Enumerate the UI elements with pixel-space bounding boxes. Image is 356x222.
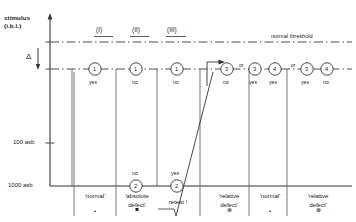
node-number-1c: 1 xyxy=(175,66,178,72)
answer-label-2b: yes xyxy=(171,170,179,176)
verdict-text-3: retest ! xyxy=(158,198,198,207)
normal-threshold-label: normal threshold xyxy=(271,33,313,39)
delta-label: Δ xyxy=(26,52,31,61)
verdict-normal-left: 'normal' xyxy=(75,192,115,201)
node-number-3c: 3 xyxy=(305,66,308,72)
answer-label-1b: no xyxy=(132,79,138,85)
stage-label-1: (I) xyxy=(96,26,102,33)
answer-label-3a: no xyxy=(223,79,229,85)
stage-label-3: (III) xyxy=(167,26,177,33)
answer-label-1c: no xyxy=(173,79,179,85)
node-number-4a: 4 xyxy=(273,66,276,72)
node-number-3a: 3 xyxy=(225,66,228,72)
or-label-2: or xyxy=(291,62,295,68)
verdict-text-2-line1: 'absolute xyxy=(117,192,157,201)
verdict-text-4-line1: 'relative xyxy=(208,192,250,201)
node-number-2b: 2 xyxy=(175,183,178,189)
node-number-3b: 3 xyxy=(253,66,256,72)
node-number-2a: 2 xyxy=(134,183,137,189)
verdict-symbol-dot-left: • xyxy=(75,208,115,214)
verdict-text-5: 'normal' xyxy=(252,192,288,201)
figure-canvas: stimulus (i.b.l.) Δ 100 asb 1000 asb nor… xyxy=(0,0,356,222)
y-axis-title-line2: (i.b.l.) xyxy=(4,22,30,30)
node-number-4b: 4 xyxy=(325,66,328,72)
verdict-symbol-dot-right: • xyxy=(252,208,288,214)
answer-label-4a: yes xyxy=(269,79,277,85)
answer-label-4b: no xyxy=(323,79,329,85)
verdict-symbol-filled-square: ■ xyxy=(117,206,157,212)
stage-label-2: (II) xyxy=(132,26,140,33)
verdict-text-6-line1: 'relative xyxy=(297,192,339,201)
answer-label-3c: yes xyxy=(301,79,309,85)
retest-bracket xyxy=(158,209,176,216)
answer-label-1a: yes xyxy=(89,79,97,85)
delta-arrow xyxy=(36,48,40,70)
answer-label-3b: yes xyxy=(249,79,257,85)
node-number-1b: 1 xyxy=(134,66,137,72)
retest-arrow-elbow xyxy=(207,62,220,86)
tick-label-1000asb: 1000 asb xyxy=(8,182,33,188)
or-label-1: or xyxy=(239,62,243,68)
answer-label-2a: no xyxy=(132,170,138,176)
verdict-text-1: 'normal' xyxy=(75,192,115,201)
verdict-symbol-circled-x-right: ⊗ xyxy=(297,206,339,213)
verdict-normal-right: 'normal' xyxy=(252,192,288,201)
y-axis-title: stimulus (i.b.l.) xyxy=(4,14,30,30)
y-axis-title-line1: stimulus xyxy=(4,14,30,22)
verdict-retest: retest ! xyxy=(158,198,198,207)
tick-label-100asb: 100 asb xyxy=(13,139,34,145)
node-number-1a: 1 xyxy=(93,66,96,72)
verdict-symbol-circled-x-left: ⊗ xyxy=(208,206,250,213)
